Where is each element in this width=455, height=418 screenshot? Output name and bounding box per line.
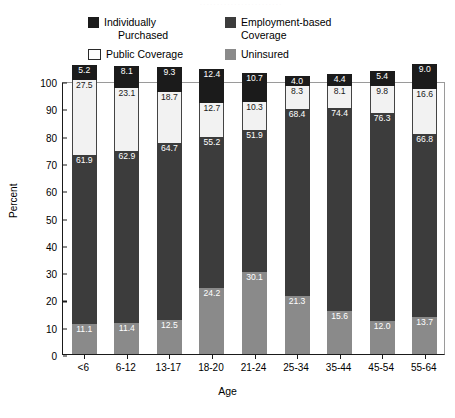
bar-segment-value: 4.0 [291, 76, 303, 86]
bar-segment: 74.4 [327, 108, 352, 311]
bar-segment: 13.7 [412, 317, 437, 354]
bar-segment: 12.0 [370, 321, 395, 354]
x-tick-label-35-44: 35-44 [326, 362, 352, 373]
bar-segment-value: 68.4 [289, 109, 306, 119]
bar-segment: 4.4 [327, 74, 352, 86]
bar-segment-value: 61.9 [76, 155, 93, 165]
bar-segment-value: 64.7 [161, 143, 178, 153]
y-tick-mark [63, 356, 67, 357]
bar-segment: 21.3 [285, 296, 310, 354]
bar-segment: 9.0 [412, 64, 437, 89]
bar-segment-value: 23.1 [118, 88, 135, 98]
y-tick-label: 10 [46, 323, 57, 334]
bar-segment: 61.9 [72, 155, 97, 324]
y-tick-20: 20 [46, 296, 63, 307]
bar-segment-value: 5.2 [78, 65, 90, 75]
bar-segment: 66.8 [412, 134, 437, 316]
bar-segment-value: 11.1 [76, 324, 92, 334]
plot-area: Percent 1009080706050403020100 11.161.92… [0, 0, 455, 418]
bar-segment-value: 21.3 [289, 296, 306, 306]
axis-frame: 1009080706050403020100 11.161.927.55.211… [62, 82, 445, 355]
bar-segment: 12.5 [157, 320, 182, 354]
bar-segment: 64.7 [157, 143, 182, 320]
bar-segment: 5.2 [72, 65, 97, 79]
bar-segment-value: 12.5 [161, 320, 178, 330]
bar-segment: 76.3 [370, 113, 395, 321]
bar-segment-value: 66.8 [416, 134, 433, 144]
x-tick-mark [127, 354, 128, 359]
bar-segment: 5.4 [370, 71, 395, 86]
bar-segment: 8.3 [285, 86, 310, 109]
y-tick-label: 90 [46, 105, 57, 116]
y-tick-70: 70 [46, 159, 63, 170]
bar-segment-value: 13.7 [416, 317, 433, 327]
bar-column-25-34[interactable]: 21.368.48.34.0 [285, 83, 310, 354]
bar-segment: 55.2 [199, 137, 224, 288]
bar-segment-value: 55.2 [204, 137, 221, 147]
y-tick-label: 100 [40, 78, 57, 89]
bar-segment-value: 12.4 [204, 69, 221, 79]
bar-segment: 10.3 [242, 102, 267, 130]
bar-column-45-54[interactable]: 12.076.39.85.4 [370, 83, 395, 354]
bar-column-<6[interactable]: 11.161.927.55.2 [72, 83, 97, 354]
bar-segment-value: 8.1 [334, 86, 346, 96]
y-tick-label: 40 [46, 241, 57, 252]
y-tick-80: 80 [46, 132, 63, 143]
y-tick-60: 60 [46, 187, 63, 198]
bar-segment: 15.6 [327, 311, 352, 354]
bar-segment: 51.9 [242, 130, 267, 272]
bar-segment: 11.4 [114, 323, 139, 354]
y-tick-90: 90 [46, 105, 63, 116]
figure: · · · · · · · · · · · · · · · · · · · · … [0, 0, 455, 418]
bar-segment-value: 9.3 [163, 67, 175, 77]
y-tick-30: 30 [46, 269, 63, 280]
x-tick-mark [382, 354, 383, 359]
bar-segment-value: 9.8 [376, 86, 388, 96]
bar-segment-value: 76.3 [374, 113, 391, 123]
y-tick-10: 10 [46, 323, 63, 334]
bar-segment-value: 12.7 [204, 103, 221, 113]
y-tick-40: 40 [46, 241, 63, 252]
x-tick-label-18-20: 18-20 [198, 362, 224, 373]
bar-segment: 11.1 [72, 324, 97, 354]
bar-segment-value: 10.7 [246, 73, 263, 83]
x-tick-label-45-54: 45-54 [368, 362, 394, 373]
bar-column-6-12[interactable]: 11.462.923.18.1 [114, 83, 139, 354]
bar-column-35-44[interactable]: 15.674.48.14.4 [327, 83, 352, 354]
x-tick-mark [255, 354, 256, 359]
bar-segment: 8.1 [327, 86, 352, 108]
x-tick-mark [212, 354, 213, 359]
bar-segment: 62.9 [114, 151, 139, 323]
bar-segment: 23.1 [114, 88, 139, 151]
y-tick-label: 20 [46, 296, 57, 307]
bar-segment-value: 8.1 [121, 66, 133, 76]
bar-segment: 30.1 [242, 272, 267, 354]
y-tick-0: 0 [51, 351, 63, 362]
bar-column-55-64[interactable]: 13.766.816.69.0 [412, 83, 437, 354]
x-tick-mark [340, 354, 341, 359]
stacked-bars: 11.161.927.55.211.462.923.18.112.564.718… [63, 83, 444, 354]
bar-column-18-20[interactable]: 24.255.212.712.4 [199, 83, 224, 354]
x-tick-mark [425, 354, 426, 359]
y-tick-label: 50 [46, 214, 57, 225]
bar-column-21-24[interactable]: 30.151.910.310.7 [242, 83, 267, 354]
bar-segment-value: 15.6 [331, 311, 348, 321]
bar-segment: 27.5 [72, 80, 97, 155]
bar-column-13-17[interactable]: 12.564.718.79.3 [157, 83, 182, 354]
bar-segment: 9.3 [157, 67, 182, 92]
bar-segment-value: 30.1 [246, 272, 263, 282]
bar-segment-value: 51.9 [246, 130, 263, 140]
bar-segment: 12.4 [199, 69, 224, 103]
bar-segment: 4.0 [285, 76, 310, 87]
bar-segment-value: 24.2 [204, 288, 221, 298]
x-tick-label-21-24: 21-24 [241, 362, 267, 373]
y-tick-label: 60 [46, 187, 57, 198]
bar-segment-value: 5.4 [376, 71, 388, 81]
y-tick-label: 30 [46, 269, 57, 280]
bar-segment: 12.7 [199, 103, 224, 138]
y-tick-label: 70 [46, 159, 57, 170]
bar-segment: 18.7 [157, 92, 182, 143]
bar-segment: 10.7 [242, 73, 267, 102]
bar-segment-value: 18.7 [161, 92, 178, 102]
bar-segment-value: 9.0 [419, 64, 431, 74]
